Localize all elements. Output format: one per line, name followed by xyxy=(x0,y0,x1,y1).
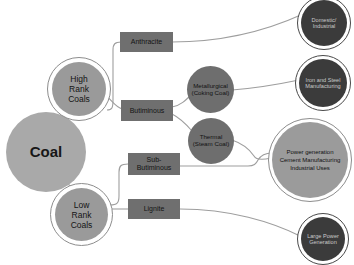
node-power-cement-line3: Industrial Uses xyxy=(290,164,330,172)
node-sub-bituminous-line2: Butiminous xyxy=(137,164,172,172)
node-power-cement-line2: Cement Manufacturing xyxy=(280,156,341,164)
node-lignite[interactable]: Lignite xyxy=(128,199,180,219)
node-metallurgical[interactable]: Metallurgical (Coking Coal) xyxy=(187,66,234,113)
node-bituminous-label: Butiminous xyxy=(130,107,165,115)
node-iron-steel-line2: Manufacturing xyxy=(305,83,340,89)
edge-bituminous-to-thermal xyxy=(172,114,192,131)
node-sub-bituminous[interactable]: Sub- Butiminous xyxy=(128,153,180,175)
node-thermal[interactable]: Thermal (Steam Coal) xyxy=(188,118,234,164)
edge-low-rank-to-sub-bituminous xyxy=(110,164,128,205)
edge-lignite-to-large-power xyxy=(180,209,300,236)
node-anthracite[interactable]: Anthracite xyxy=(120,32,173,52)
node-anthracite-label: Anthracite xyxy=(131,38,163,46)
node-lignite-label: Lignite xyxy=(144,205,165,213)
edge-anthracite-to-domestic xyxy=(172,14,303,42)
edge-thermal-to-power-cement xyxy=(232,140,271,159)
node-low-rank-line2: Rank xyxy=(72,210,92,220)
node-large-power-generation[interactable]: Large Power Generation xyxy=(297,213,349,265)
node-power-cement-line1: Power generation xyxy=(286,148,333,156)
node-power-cement-industrial[interactable]: Power generation Cement Manufacturing In… xyxy=(268,118,352,202)
node-low-rank-coals[interactable]: Low Rank Coals xyxy=(50,183,113,246)
node-high-rank-line3: Coals xyxy=(68,94,90,104)
edge-metallurgical-to-iron-steel xyxy=(232,80,299,90)
node-sub-bituminous-line1: Sub- xyxy=(147,156,162,164)
node-high-rank-line2: Rank xyxy=(69,84,89,94)
node-large-power-line2: Generation xyxy=(309,239,337,245)
node-iron-steel-manufacturing[interactable]: Iron and Steel Manufacturing xyxy=(295,55,351,111)
node-high-rank-line1: High xyxy=(70,74,87,84)
node-coal[interactable]: Coal xyxy=(6,112,86,192)
node-coal-label: Coal xyxy=(30,144,63,161)
node-domestic-line2: Industrial xyxy=(313,23,336,29)
node-thermal-line2: (Steam Coal) xyxy=(193,141,229,148)
node-low-rank-line1: Low xyxy=(74,200,90,210)
node-bituminous[interactable]: Butiminous xyxy=(121,100,173,121)
node-metallurgical-line2: (Coking Coal) xyxy=(192,90,230,97)
node-low-rank-line3: Coals xyxy=(71,220,93,230)
node-high-rank-coals[interactable]: High Rank Coals xyxy=(47,57,111,121)
